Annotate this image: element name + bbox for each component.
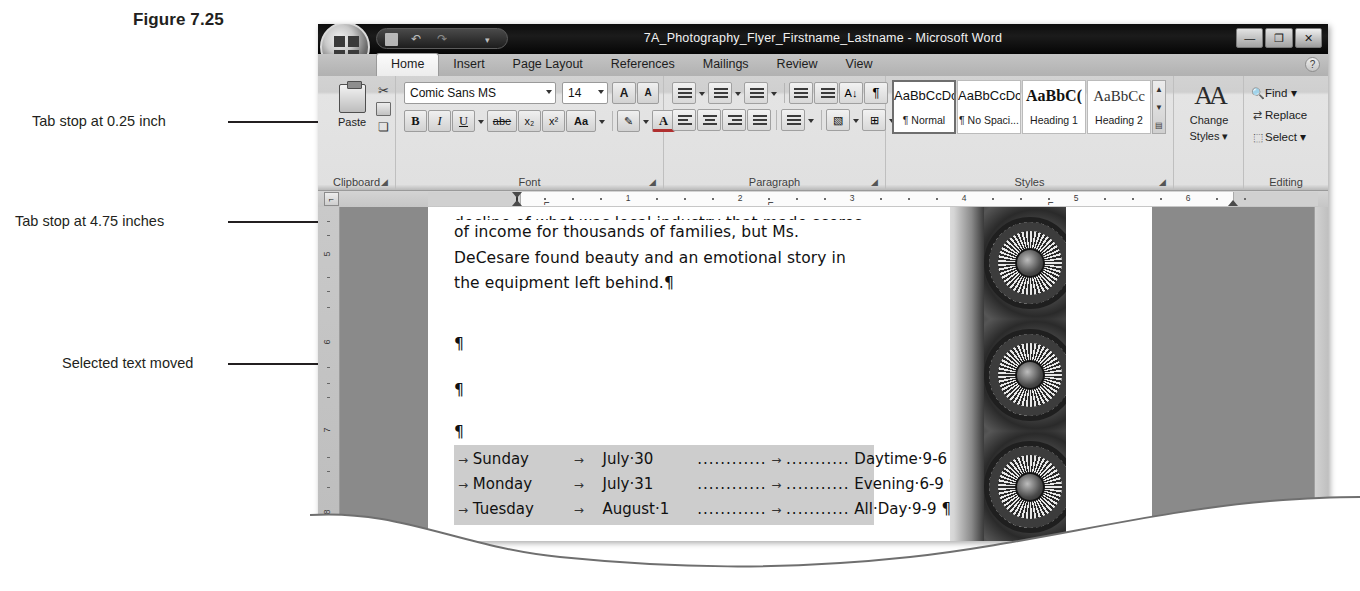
format-painter-icon[interactable]: ❏ bbox=[376, 120, 391, 134]
tab-page-layout[interactable]: Page Layout bbox=[499, 54, 597, 76]
style-heading-1[interactable]: AaBbC( Heading 1 bbox=[1022, 80, 1086, 134]
tab-insert[interactable]: Insert bbox=[439, 54, 498, 76]
tab-view[interactable]: View bbox=[832, 54, 887, 76]
styles-more-icon[interactable]: ▤ bbox=[1153, 117, 1165, 135]
annotation-leader-3 bbox=[228, 363, 318, 365]
help-icon[interactable]: ? bbox=[1305, 57, 1320, 72]
ruler-number-2: 2 bbox=[738, 193, 743, 203]
align-left-icon[interactable] bbox=[672, 109, 696, 131]
style-heading-2[interactable]: AaBbCc Heading 2 bbox=[1087, 80, 1151, 134]
bold-button[interactable]: B bbox=[404, 110, 427, 132]
strikethrough-button[interactable]: abe bbox=[487, 110, 517, 132]
scissors-icon[interactable]: ✂ bbox=[376, 84, 391, 98]
line-spacing-icon[interactable] bbox=[781, 109, 805, 131]
body-line-4: the equipment left behind.¶ bbox=[454, 271, 924, 297]
clipboard-dialog-launcher[interactable]: ◢ bbox=[381, 177, 391, 187]
style-no-spacing[interactable]: AaBbCcDc ¶ No Spaci... bbox=[957, 80, 1021, 134]
find-button[interactable]: 🔍Find ▾ bbox=[1250, 84, 1297, 102]
page-right-margin bbox=[1066, 207, 1152, 541]
document-canvas[interactable]: 5 6 7 8 decline of what was local indust… bbox=[318, 207, 1328, 541]
table-row[interactable]: → Tuesday → August·1 ............ → ....… bbox=[454, 497, 874, 522]
change-case-button[interactable]: Aa bbox=[566, 110, 596, 132]
increase-indent-icon[interactable] bbox=[814, 82, 838, 104]
underline-button[interactable]: U bbox=[452, 110, 475, 132]
subscript-button[interactable]: x₂ bbox=[518, 110, 541, 132]
align-right-icon[interactable] bbox=[722, 109, 746, 131]
group-change-styles: AA Change Styles ▾ bbox=[1174, 76, 1244, 189]
word-application-window[interactable]: ↶ ↷ ▾ 7A_Photography_Flyer_Firstname_Las… bbox=[318, 24, 1328, 541]
numbering-icon[interactable] bbox=[708, 82, 732, 104]
styles-scroll-up-icon[interactable]: ▲ bbox=[1153, 81, 1165, 99]
document-page[interactable]: decline of what was local industry that … bbox=[428, 207, 1152, 541]
tab-review[interactable]: Review bbox=[763, 54, 832, 76]
change-case-chevron-down-icon[interactable] bbox=[597, 110, 606, 132]
tab-references[interactable]: References bbox=[597, 54, 689, 76]
styles-gallery-scrollbar[interactable]: ▲ ▼ ▤ bbox=[1152, 80, 1166, 134]
select-button[interactable]: ⬚Select ▾ bbox=[1250, 128, 1306, 146]
tab-stop-marker-025[interactable]: ⌐ bbox=[544, 199, 550, 206]
grow-font-button[interactable]: A bbox=[612, 82, 636, 104]
sort-icon[interactable]: A↓ bbox=[839, 82, 863, 104]
hanging-indent-marker[interactable] bbox=[512, 200, 522, 206]
styles-dialog-launcher[interactable]: ◢ bbox=[1159, 177, 1169, 187]
font-name-input[interactable]: Comic Sans MS bbox=[404, 82, 556, 104]
highlight-icon[interactable]: ✎ bbox=[617, 110, 640, 132]
show-formatting-marks-icon[interactable]: ¶ bbox=[864, 82, 888, 104]
style-heading-1-name: Heading 1 bbox=[1023, 114, 1085, 126]
change-styles-button[interactable]: AA Change Styles ▾ bbox=[1182, 81, 1236, 143]
underline-chevron-down-icon[interactable] bbox=[476, 110, 485, 132]
style-normal[interactable]: AaBbCcDc ¶ Normal bbox=[892, 80, 956, 134]
window-controls[interactable]: — ❐ ✕ bbox=[1236, 28, 1322, 48]
right-indent-marker[interactable] bbox=[1228, 200, 1238, 206]
styles-gallery[interactable]: AaBbCcDc ¶ Normal AaBbCcDc ¶ No Spaci...… bbox=[892, 80, 1151, 134]
tab-mark-2-row1: → bbox=[574, 453, 584, 467]
line-spacing-chevron-down-icon[interactable] bbox=[806, 109, 815, 131]
replace-icon: ⇄ bbox=[1250, 106, 1265, 124]
tab-mark-2-row3: → bbox=[574, 503, 584, 517]
borders-icon[interactable]: ⊞ bbox=[862, 109, 886, 131]
empty-paragraph-2: ¶ bbox=[454, 373, 464, 407]
bullets-icon[interactable] bbox=[672, 82, 696, 104]
replace-button[interactable]: ⇄Replace bbox=[1250, 106, 1307, 124]
decrease-indent-icon[interactable] bbox=[789, 82, 813, 104]
tab-stop-marker-475[interactable]: ⌐ bbox=[1048, 199, 1054, 206]
paragraph-dialog-launcher[interactable]: ◢ bbox=[871, 177, 881, 187]
ribbon-tabs[interactable]: Home Insert Page Layout References Maili… bbox=[376, 54, 886, 76]
highlight-chevron-down-icon[interactable] bbox=[641, 110, 650, 132]
tab-home[interactable]: Home bbox=[376, 53, 439, 76]
bullets-chevron-down-icon[interactable] bbox=[697, 82, 706, 104]
superscript-button[interactable]: x² bbox=[542, 110, 565, 132]
multilevel-list-icon[interactable] bbox=[744, 82, 768, 104]
shading-chevron-down-icon[interactable] bbox=[851, 109, 860, 131]
tab-stop-selector[interactable]: ⌐ bbox=[324, 192, 339, 206]
paste-button[interactable]: Paste bbox=[330, 82, 374, 146]
styles-scroll-down-icon[interactable]: ▼ bbox=[1153, 99, 1165, 117]
align-center-icon[interactable] bbox=[697, 109, 721, 131]
numbering-chevron-down-icon[interactable] bbox=[733, 82, 742, 104]
time-cell-row1: Daytime·9-6 bbox=[854, 450, 947, 468]
shading-icon[interactable]: ▧ bbox=[826, 109, 850, 131]
tab-stop-marker-225[interactable]: ⌐ bbox=[768, 199, 774, 206]
copy-icon[interactable] bbox=[376, 102, 391, 116]
font-dialog-launcher[interactable]: ◢ bbox=[649, 177, 659, 187]
schedule-selection[interactable]: → Sunday → July·30 ............ → ......… bbox=[454, 445, 874, 525]
italic-button[interactable]: I bbox=[428, 110, 451, 132]
font-size-input[interactable]: 14 bbox=[562, 82, 608, 104]
horizontal-ruler[interactable]: 1 2 3 4 5 6 ⌐ ⌐ ⌐ bbox=[428, 192, 1318, 206]
document-body-text[interactable]: decline of what was local industry that … bbox=[454, 211, 924, 297]
vertical-scrollbar[interactable] bbox=[1314, 207, 1328, 541]
shrink-font-button[interactable]: A bbox=[637, 82, 659, 104]
tab-mailings[interactable]: Mailings bbox=[689, 54, 763, 76]
justify-icon[interactable] bbox=[747, 109, 771, 131]
font-size-chevron-down-icon[interactable] bbox=[598, 90, 604, 94]
tab-mark-1-row3: → bbox=[458, 503, 468, 517]
multilevel-chevron-down-icon[interactable] bbox=[769, 82, 778, 104]
close-button[interactable]: ✕ bbox=[1295, 28, 1322, 48]
font-name-chevron-down-icon[interactable] bbox=[546, 90, 552, 94]
table-row[interactable]: → Monday → July·31 ............ → ......… bbox=[454, 472, 874, 497]
ribbon: Home Insert Page Layout References Maili… bbox=[318, 54, 1328, 191]
first-line-indent-marker[interactable] bbox=[512, 192, 522, 198]
restore-button[interactable]: ❐ bbox=[1265, 28, 1292, 48]
table-row[interactable]: → Sunday → July·30 ............ → ......… bbox=[454, 447, 874, 472]
minimize-button[interactable]: — bbox=[1236, 28, 1263, 48]
